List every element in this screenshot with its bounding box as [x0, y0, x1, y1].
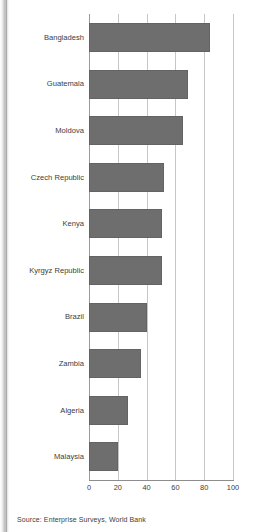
x-tick-label: 20 [103, 483, 133, 492]
bar-chart-figure: 020406080100 Source: Enterprise Surveys,… [0, 0, 274, 532]
gridline-100 [233, 14, 234, 480]
category-label: Algeria [0, 406, 84, 415]
page-gutter-line [6, 0, 7, 532]
category-label: Bangladesh [0, 33, 84, 42]
bar[interactable] [89, 303, 147, 332]
bar[interactable] [89, 442, 118, 471]
bar[interactable] [89, 163, 164, 192]
x-tick-label: 100 [218, 483, 248, 492]
bar[interactable] [89, 70, 188, 99]
category-label: Brazil [0, 312, 84, 321]
bar[interactable] [89, 396, 128, 425]
bar[interactable] [89, 209, 162, 238]
bar[interactable] [89, 349, 141, 378]
x-axis-tick-labels: 020406080100 [89, 483, 234, 497]
bar[interactable] [89, 23, 210, 52]
bar-row[interactable] [89, 387, 233, 434]
category-label: Kenya [0, 219, 84, 228]
bar-row[interactable] [89, 200, 233, 247]
x-tick-label: 60 [160, 483, 190, 492]
x-tick-label: 0 [74, 483, 104, 492]
bar-row[interactable] [89, 433, 233, 480]
bar-row[interactable] [89, 154, 233, 201]
category-label: Malaysia [0, 452, 84, 461]
category-label: Guatemala [0, 79, 84, 88]
plot-area [89, 14, 233, 480]
category-label: Zambia [0, 359, 84, 368]
bar-row[interactable] [89, 107, 233, 154]
bar-row[interactable] [89, 14, 233, 61]
bar-row[interactable] [89, 340, 233, 387]
page-gutter-shadow [0, 0, 9, 532]
bar-row[interactable] [89, 294, 233, 341]
bar[interactable] [89, 256, 162, 285]
x-tick-label: 40 [132, 483, 162, 492]
x-axis-line [89, 480, 234, 481]
category-label: Czech Republic [0, 173, 84, 182]
x-tick-label: 80 [189, 483, 219, 492]
bar-row[interactable] [89, 247, 233, 294]
category-label: Moldova [0, 126, 84, 135]
bar-row[interactable] [89, 61, 233, 108]
source-note: Source: Enterprise Surveys, World Bank [17, 516, 146, 523]
bar[interactable] [89, 116, 183, 145]
category-label: Kyrgyz Republic [0, 266, 84, 275]
